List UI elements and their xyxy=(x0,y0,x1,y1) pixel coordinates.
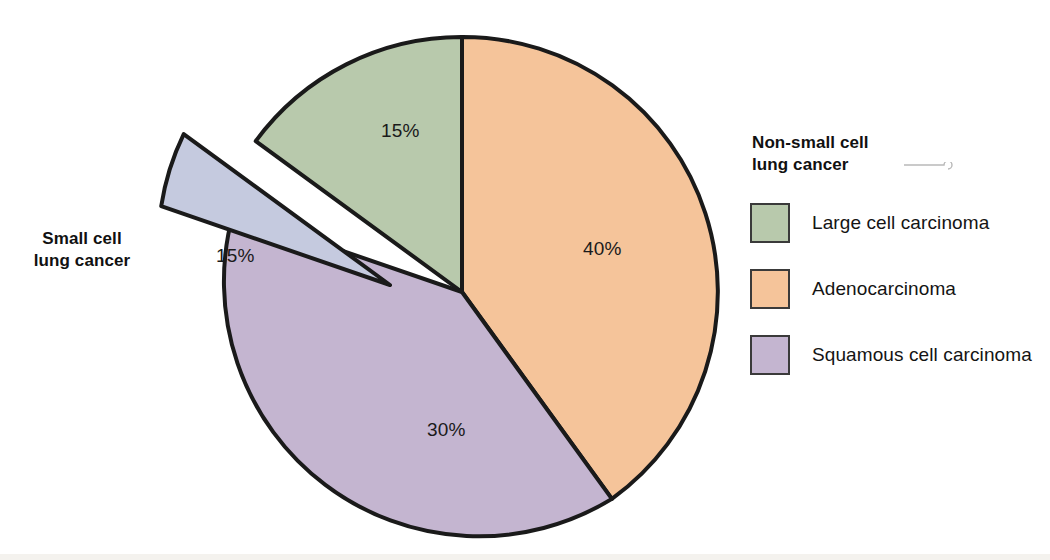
scan-edge xyxy=(0,554,1050,560)
legend-label-adenocarcinoma: Adenocarcinoma xyxy=(812,278,956,300)
slice-label-large-cell-carcinoma: 15% xyxy=(381,120,420,142)
pie-chart-figure: 15% 40% 30% 15% Small cell lung cancer N… xyxy=(0,0,1050,560)
slice-label-small-cell-lung-cancer: 15% xyxy=(216,245,255,267)
slice-label-adenocarcinoma: 40% xyxy=(583,238,622,260)
callout-small-cell-lung-cancer: Small cell lung cancer xyxy=(8,228,156,272)
legend-item-adenocarcinoma[interactable]: Adenocarcinoma xyxy=(744,256,1044,322)
legend-swatch-large-cell-carcinoma xyxy=(750,203,790,243)
legend-swatch-adenocarcinoma xyxy=(750,269,790,309)
legend-item-large-cell-carcinoma[interactable]: Large cell carcinoma xyxy=(744,190,1044,256)
legend-label-large-cell-carcinoma: Large cell carcinoma xyxy=(812,212,989,234)
legend-label-squamous-cell-carcinoma: Squamous cell carcinoma xyxy=(812,344,1032,366)
legend: Non-small cell lung cancer Large cell ca… xyxy=(744,132,1044,388)
legend-swatch-squamous-cell-carcinoma xyxy=(750,335,790,375)
legend-title: Non-small cell lung cancer xyxy=(752,132,1044,176)
slice-label-squamous-cell-carcinoma: 30% xyxy=(427,419,466,441)
legend-item-squamous-cell-carcinoma[interactable]: Squamous cell carcinoma xyxy=(744,322,1044,388)
